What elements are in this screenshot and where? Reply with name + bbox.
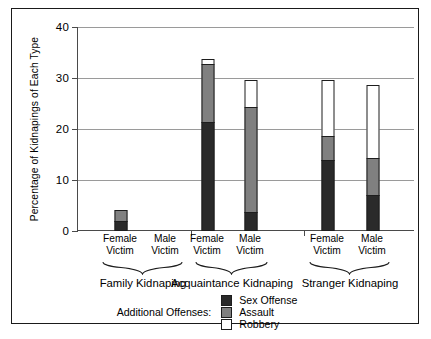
bar-segment-sex: [322, 160, 335, 231]
y-axis-tick: [72, 78, 78, 79]
chart-legend: Additional Offenses: Sex OffenseAssaultR…: [24, 301, 420, 323]
bar: [202, 59, 215, 230]
x-tick-line1: Female: [190, 233, 224, 245]
legend-label: Sex Offense: [239, 294, 297, 306]
group-name-labels: Family KidnapingAcquaintance KidnapingSt…: [77, 277, 414, 295]
x-tick-line2: Victim: [151, 245, 179, 257]
x-tick-line2: Victim: [236, 245, 264, 257]
x-tick-line1: Male: [236, 233, 264, 245]
legend-item: Assault: [221, 306, 297, 318]
y-axis-tick-label: 20: [56, 123, 69, 135]
y-axis-tick: [72, 27, 78, 28]
bar-segment-assault: [322, 136, 335, 161]
bar-segment-sex: [202, 122, 215, 231]
x-axis-tick-label: FemaleVictim: [190, 233, 224, 258]
legend-title: Additional Offenses:: [117, 306, 212, 318]
group-braces: [77, 262, 414, 278]
x-axis-tick-labels: FemaleVictimMaleVictimFemaleVictimMaleVi…: [77, 233, 414, 265]
bar-segment-assault: [202, 64, 215, 123]
legend-label: Robbery: [239, 318, 279, 330]
x-tick-line1: Male: [358, 233, 386, 245]
bar: [367, 85, 380, 230]
x-tick-line2: Victim: [358, 245, 386, 257]
y-axis-tick: [72, 180, 78, 181]
plot-area: 403020100: [77, 27, 414, 231]
legend-item: Robbery: [221, 318, 327, 330]
legend-item: Sex Offense: [221, 294, 297, 306]
bar-segment-robbery: [245, 80, 258, 108]
group-label: Stranger Kidnaping: [302, 277, 399, 289]
group-brace: [195, 262, 268, 275]
x-axis-tick-label: MaleVictim: [236, 233, 264, 258]
legend-items: Sex OffenseAssaultRobbery: [221, 294, 327, 330]
legend-label: Assault: [239, 306, 274, 318]
chart-figure: Percentage of Kidnapings of Each Type 40…: [11, 8, 419, 324]
x-tick-line2: Victim: [103, 245, 137, 257]
bar: [115, 210, 128, 230]
x-tick-line1: Male: [151, 233, 179, 245]
x-tick-line2: Victim: [190, 245, 224, 257]
bar-segment-sex: [115, 221, 128, 231]
bar-segment-sex: [245, 212, 258, 231]
y-axis-tick: [72, 129, 78, 130]
gridline: [78, 78, 414, 79]
bar-segment-robbery: [367, 85, 380, 159]
group-brace: [102, 262, 183, 275]
x-tick-line2: Victim: [310, 245, 344, 257]
x-axis-tick-label: MaleVictim: [358, 233, 386, 258]
legend-swatch-robbery: [221, 319, 232, 330]
x-axis-tick-label: FemaleVictim: [103, 233, 137, 258]
bar: [245, 80, 258, 230]
legend-swatch-sex: [221, 295, 232, 306]
x-tick-line1: Female: [310, 233, 344, 245]
bar-segment-sex: [367, 195, 380, 231]
x-tick-line1: Female: [103, 233, 137, 245]
group-label: Acquaintance Kidnaping: [171, 277, 293, 289]
bar-segment-robbery: [322, 80, 335, 137]
y-axis-tick-label: 0: [62, 225, 69, 237]
group-brace: [309, 262, 390, 275]
x-axis-tick-label: MaleVictim: [151, 233, 179, 258]
legend-swatch-assault: [221, 307, 232, 318]
y-axis-title: Percentage of Kidnapings of Each Type: [29, 37, 40, 221]
bar: [322, 80, 335, 230]
y-axis-tick: [72, 231, 78, 232]
bar-segment-assault: [367, 158, 380, 196]
gridline: [78, 27, 414, 28]
x-axis-tick-label: FemaleVictim: [310, 233, 344, 258]
y-axis-tick-label: 40: [56, 21, 69, 33]
y-axis-tick-label: 30: [56, 72, 69, 84]
bar-segment-assault: [245, 107, 258, 213]
y-axis-tick-label: 10: [56, 174, 69, 186]
